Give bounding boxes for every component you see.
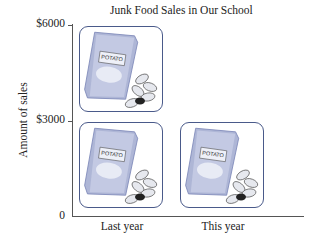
y-tick-label-3000: $3000 bbox=[5, 113, 65, 125]
chips-and-candy-icon: POTATO bbox=[80, 27, 163, 112]
x-tick-label-last-year: Last year bbox=[77, 220, 167, 232]
y-tick-6000 bbox=[68, 25, 73, 26]
x-tick-label-this-year: This year bbox=[178, 220, 268, 232]
y-tick-3000 bbox=[68, 121, 73, 122]
pictogram-last-year-upper: POTATO bbox=[79, 26, 163, 112]
x-axis-line bbox=[72, 216, 304, 217]
y-tick-label-0: 0 bbox=[5, 209, 65, 221]
chips-and-candy-icon: POTATO bbox=[80, 123, 163, 208]
chart-title: Junk Food Sales in Our School bbox=[110, 4, 253, 16]
pictogram-this-year: POTATO bbox=[180, 122, 264, 208]
pictogram-last-year-lower: POTATO bbox=[79, 122, 163, 208]
chips-and-candy-icon: POTATO bbox=[181, 123, 264, 208]
y-tick-label-6000: $6000 bbox=[5, 17, 65, 29]
